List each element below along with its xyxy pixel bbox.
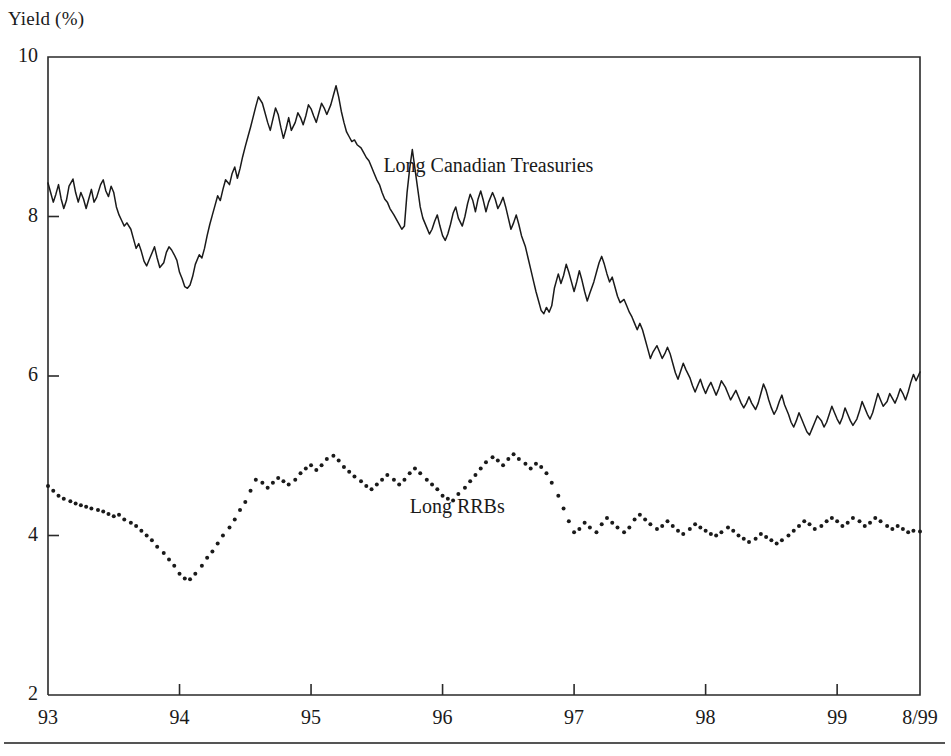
x-tick-label: 8/99 (880, 706, 951, 729)
plot-area (0, 0, 951, 756)
y-tick-label: 4 (4, 523, 38, 546)
series-label-rrbs: Long RRBs (410, 495, 505, 518)
y-tick-label: 6 (4, 363, 38, 386)
series-label-treasuries: Long Canadian Treasuries (383, 154, 593, 177)
y-tick-label: 8 (4, 204, 38, 227)
plot-frame (48, 57, 920, 695)
chart-figure: Yield (%) 108642 939495969798998/99 Long… (0, 0, 951, 756)
footer-rule (4, 742, 945, 744)
x-tick-label: 96 (403, 706, 483, 729)
x-tick-label: 97 (534, 706, 614, 729)
y-tick-label: 2 (4, 682, 38, 705)
x-tick-label: 94 (140, 706, 220, 729)
axis-ticks (48, 217, 837, 696)
y-tick-label: 10 (4, 44, 38, 67)
x-tick-label: 93 (8, 706, 88, 729)
x-tick-label: 99 (797, 706, 877, 729)
x-tick-label: 98 (666, 706, 746, 729)
x-tick-label: 95 (271, 706, 351, 729)
